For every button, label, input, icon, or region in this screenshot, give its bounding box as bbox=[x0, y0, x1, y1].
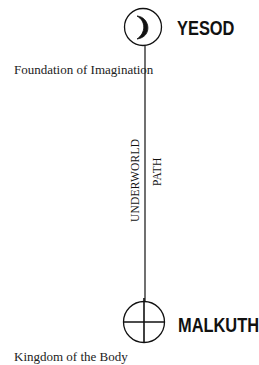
malkuth-caption: Kingdom of the Body bbox=[14, 349, 128, 365]
yesod-circle bbox=[125, 9, 162, 46]
malkuth-label: MALKUTH bbox=[178, 314, 259, 337]
path-label-path: PATH bbox=[151, 158, 163, 187]
yesod-caption: Foundation of Imagination bbox=[14, 62, 153, 78]
malkuth-symbol bbox=[124, 298, 165, 343]
path-label-underworld: UNDERWORLD bbox=[129, 139, 141, 222]
yesod-symbol bbox=[125, 9, 162, 46]
yesod-label: YESOD bbox=[177, 17, 234, 40]
